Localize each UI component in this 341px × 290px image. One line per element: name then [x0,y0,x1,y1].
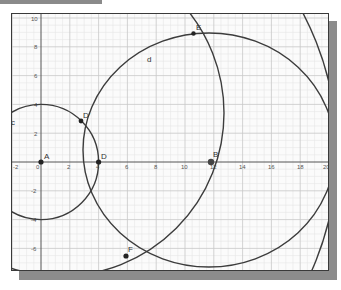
svg-text:F: F [128,245,133,254]
svg-text:-2: -2 [13,164,19,170]
svg-text:10: 10 [31,16,38,22]
svg-text:16: 16 [268,164,275,170]
point-b[interactable] [208,159,214,165]
svg-text:d: d [147,55,151,64]
svg-text:c: c [12,118,15,127]
graphics-view[interactable]: -2 0 2 4 6 8 10 12 14 16 18 20 10 8 6 4 … [11,13,329,271]
points [38,31,214,258]
point-a[interactable] [38,159,43,164]
svg-text:10: 10 [181,164,188,170]
geometry-canvas[interactable]: -2 0 2 4 6 8 10 12 14 16 18 20 10 8 6 4 … [12,14,329,271]
svg-text:18: 18 [297,164,304,170]
svg-text:-2: -2 [31,188,37,194]
point-f[interactable] [123,253,128,258]
svg-text:B: B [213,150,218,159]
minor-grid [12,14,329,271]
svg-text:D: D [101,152,107,161]
svg-text:E: E [196,23,201,32]
svg-text:D': D' [83,111,91,120]
svg-text:A: A [44,152,50,161]
title-bar-strip [0,0,102,4]
svg-text:-6: -6 [31,246,37,252]
svg-text:20: 20 [323,164,329,170]
svg-text:2: 2 [34,131,38,137]
y-tick-labels: 10 8 6 4 2 -2 -4 -6 [31,16,38,252]
svg-text:14: 14 [239,164,246,170]
